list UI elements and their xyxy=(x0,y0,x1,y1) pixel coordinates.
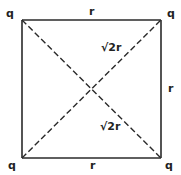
edge-label-bottom: r xyxy=(90,160,95,171)
edge-label-right: r xyxy=(168,83,173,94)
charge-label-top-right: q xyxy=(167,8,175,19)
square-charge-diagram: q q q q r r r √2r √2r xyxy=(0,0,181,175)
edge-label-top: r xyxy=(89,6,94,17)
charge-label-bottom-left: q xyxy=(8,160,16,171)
charge-label-top-left: q xyxy=(6,8,14,19)
diagram-canvas xyxy=(0,0,181,175)
diagonal-label-lower: √2r xyxy=(100,121,120,132)
diagonal-label-upper: √2r xyxy=(101,42,121,53)
charge-label-bottom-right: q xyxy=(165,160,173,171)
